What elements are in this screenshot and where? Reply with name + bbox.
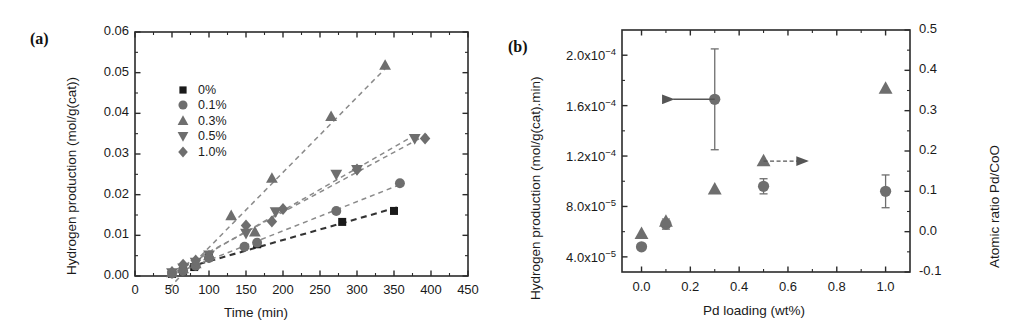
- panel-a: (a) Hydrogen production (mol/g(cat)) Tim…: [0, 0, 500, 333]
- legend-item-01: 0.1%: [172, 98, 227, 114]
- panel-a-ytick-label: 0.06: [77, 23, 129, 38]
- panel-a-ytick-label: 0.01: [77, 226, 129, 241]
- panel-a-data-point: [395, 178, 405, 188]
- legend-marker-diamond-icon: [172, 145, 194, 159]
- legend-item-05: 0.5%: [172, 129, 227, 145]
- panel-b-data-point: [659, 214, 673, 227]
- panel-a-data-point: [252, 238, 262, 248]
- panel-b-data-point: [757, 154, 771, 167]
- panel-a-ytick-label: 0.04: [77, 104, 129, 119]
- panel-b-ytick-label-left: 4.0x10−5: [530, 248, 616, 265]
- panel-b-ytick-label-right: 0.2: [919, 142, 959, 157]
- panel-a-data-point: [379, 59, 391, 70]
- legend-label: 1.0%: [198, 145, 227, 159]
- panel-b-ytick-label-right: 0.4: [919, 61, 959, 76]
- panel-a-x-axis-title: Time (min): [224, 305, 288, 320]
- panel-b-xtick-label: 0.6: [764, 279, 812, 294]
- panel-b: (b) Hydrogen production (mol/g(cat).min)…: [500, 0, 1014, 333]
- panel-a-data-point: [390, 207, 398, 215]
- legend-item-03: 0.3%: [172, 113, 227, 129]
- panel-a-data-point: [225, 210, 237, 221]
- panel-b-data-point: [758, 181, 769, 192]
- panel-a-ytick-label: 0.03: [77, 145, 129, 160]
- panel-a-data-point: [266, 172, 278, 183]
- panel-b-xtick-label: 0.8: [813, 279, 861, 294]
- legend-label: 0.3%: [198, 114, 227, 128]
- panel-b-xtick-label: 0.4: [715, 279, 763, 294]
- panel-a-trendline: [169, 184, 403, 276]
- legend-label: 0%: [198, 83, 216, 97]
- panel-a-ytick-label: 0.00: [77, 267, 129, 282]
- panel-a-data-point: [249, 226, 261, 237]
- legend-marker: [178, 101, 187, 110]
- panel-b-ytick-label-right: 0.1: [919, 182, 959, 197]
- panel-b-frame: [622, 30, 910, 272]
- panel-b-ytick-label-left: 8.0x10−5: [530, 197, 616, 214]
- panel-a-data-point: [331, 206, 341, 216]
- panel-a-ytick-label: 0.05: [77, 64, 129, 79]
- panel-a-data-point: [325, 110, 337, 121]
- legend-label: 0.1%: [198, 98, 227, 112]
- legend-marker-square-icon: [172, 83, 194, 97]
- panel-b-data-point: [880, 186, 891, 197]
- legend-marker: [178, 146, 188, 157]
- panel-b-x-axis-title: Pd loading (wt%): [703, 303, 805, 318]
- panel-a-label: (a): [30, 30, 49, 48]
- panel-b-data-point: [636, 241, 647, 252]
- panel-a-data-point: [338, 218, 346, 226]
- legend-marker-triangle-down-icon: [172, 129, 194, 143]
- legend-marker-circle-icon: [172, 98, 194, 112]
- panel-b-ytick-label-left: 1.2x10−4: [530, 147, 616, 164]
- panel-a-legend: 0%0.1%0.3%0.5%1.0%: [172, 82, 227, 160]
- panel-a-data-point: [420, 133, 431, 145]
- legend-marker-triangle-up-icon: [172, 114, 194, 128]
- panel-b-ytick-label-right: 0.5: [919, 21, 959, 36]
- panel-b-ytick-label-right: -0.1: [919, 263, 959, 278]
- legend-marker: [179, 86, 186, 93]
- panel-b-xtick-label: 0.0: [618, 279, 666, 294]
- panel-b-data-point: [879, 81, 893, 94]
- panel-b-data-point: [708, 182, 722, 195]
- figure-container: (a) Hydrogen production (mol/g(cat)) Tim…: [0, 0, 1014, 333]
- panel-a-data-point: [330, 170, 342, 181]
- panel-a-xtick-label: 450: [446, 282, 490, 297]
- legend-item-10: 1.0%: [172, 144, 227, 160]
- panel-b-ytick-label-left: 1.6x10−4: [530, 97, 616, 114]
- panel-b-ytick-label-left: 2.0x10−4: [530, 46, 616, 63]
- panel-a-ytick-label: 0.02: [77, 186, 129, 201]
- panel-b-ytick-label-right: 0.3: [919, 102, 959, 117]
- legend-item-0: 0%: [172, 82, 227, 98]
- panel-b-xtick-label: 0.2: [666, 279, 714, 294]
- panel-b-xtick-label: 1.0: [862, 279, 910, 294]
- legend-marker: [178, 115, 189, 125]
- panel-b-ytick-label-right: 0.0: [919, 223, 959, 238]
- legend-marker: [178, 132, 189, 142]
- legend-label: 0.5%: [198, 129, 227, 143]
- panel-b-data-point: [635, 226, 649, 239]
- panel-b-y-axis-right-title: Atomic ratio Pd/CoO: [987, 145, 1002, 268]
- panel-b-label: (b): [508, 38, 528, 56]
- panel-a-data-point: [240, 242, 250, 252]
